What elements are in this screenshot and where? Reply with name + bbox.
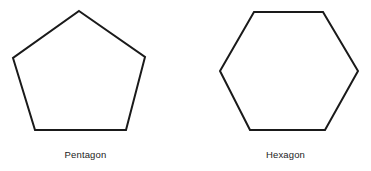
hexagon-shape [220,12,358,130]
shapes-figure [0,0,371,171]
pentagon-shape [13,11,145,130]
figure-canvas: Pentagon Hexagon [0,0,371,171]
hexagon-label: Hexagon [200,149,371,160]
pentagon-label: Pentagon [0,149,171,160]
